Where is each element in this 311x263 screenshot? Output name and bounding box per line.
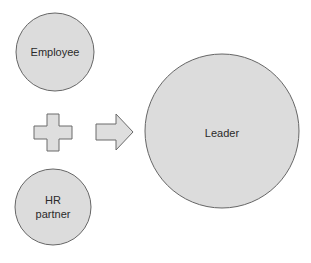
hr-partner-label: HR partner (36, 193, 71, 221)
employee-label: Employee (31, 45, 80, 59)
leader-label: Leader (205, 126, 239, 140)
plus-icon (34, 114, 72, 151)
right-arrow-icon (96, 114, 133, 150)
diagram-canvas (0, 0, 311, 263)
hr-partner-label-line-1: HR (36, 193, 71, 207)
hr-partner-label-line-2: partner (36, 207, 71, 221)
